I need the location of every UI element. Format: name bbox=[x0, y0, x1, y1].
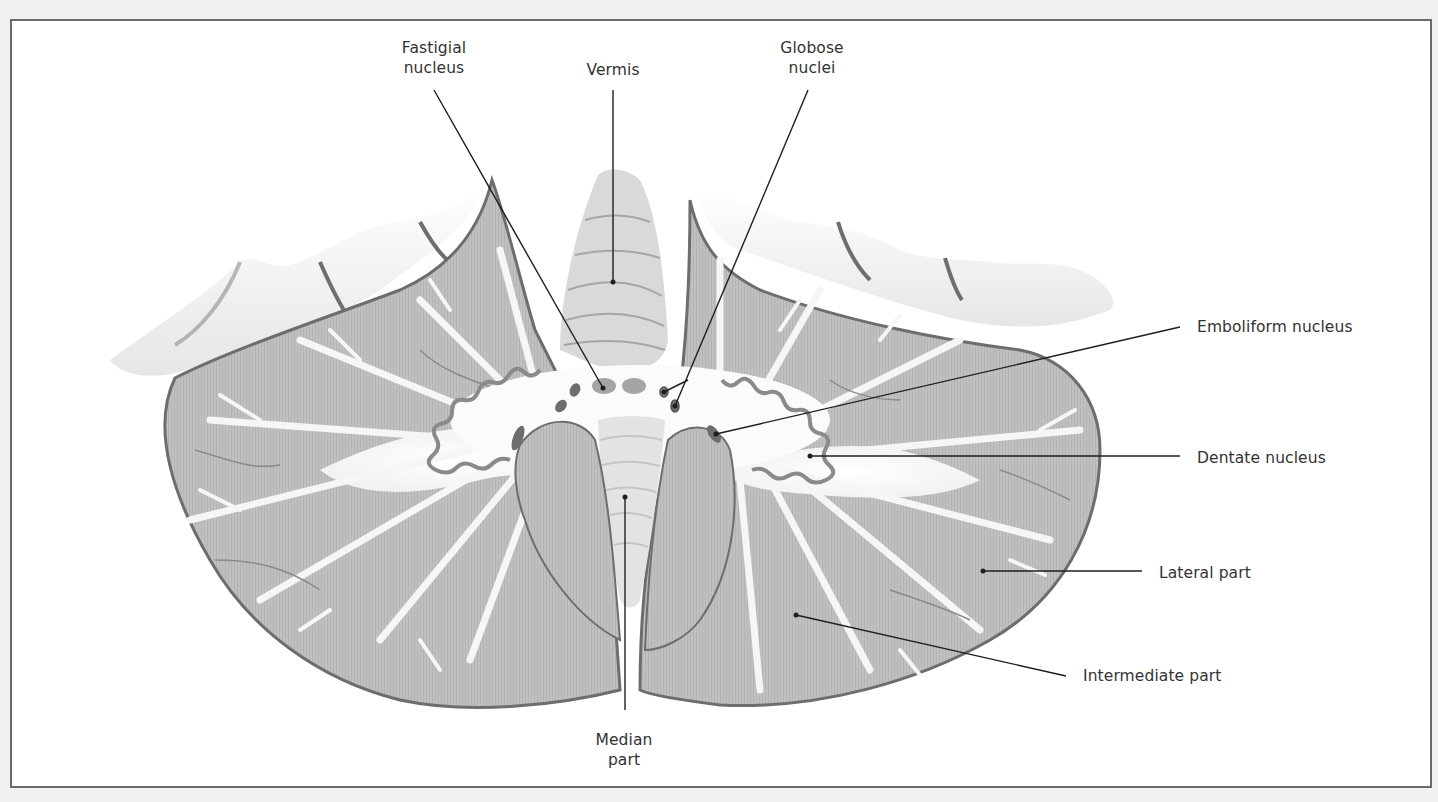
fastigial-nucleus-right bbox=[622, 378, 646, 394]
label-fastigial-line2: nucleus bbox=[402, 58, 466, 78]
label-median-part: Median part bbox=[596, 730, 653, 770]
label-dentate-nucleus: Dentate nucleus bbox=[1197, 448, 1326, 468]
cerebellum-illustration bbox=[0, 0, 1438, 802]
label-emboliform-nucleus: Emboliform nucleus bbox=[1197, 317, 1353, 337]
label-globose-line2: nuclei bbox=[780, 58, 843, 78]
label-dentate-line1: Dentate nucleus bbox=[1197, 448, 1326, 468]
label-fastigial-nucleus: Fastigial nucleus bbox=[402, 38, 466, 78]
label-globose-line1: Globose bbox=[780, 38, 843, 58]
label-lateral-part: Lateral part bbox=[1159, 563, 1251, 583]
label-intermediate-line1: Intermediate part bbox=[1083, 666, 1221, 686]
label-median-line2: part bbox=[596, 750, 653, 770]
label-emboliform-line1: Emboliform nucleus bbox=[1197, 317, 1353, 337]
label-globose-nuclei: Globose nuclei bbox=[780, 38, 843, 78]
label-lateral-line1: Lateral part bbox=[1159, 563, 1251, 583]
label-vermis-line1: Vermis bbox=[586, 60, 639, 80]
label-intermediate-part: Intermediate part bbox=[1083, 666, 1221, 686]
label-fastigial-line1: Fastigial bbox=[402, 38, 466, 58]
label-median-line1: Median bbox=[596, 730, 653, 750]
label-vermis: Vermis bbox=[586, 60, 639, 80]
